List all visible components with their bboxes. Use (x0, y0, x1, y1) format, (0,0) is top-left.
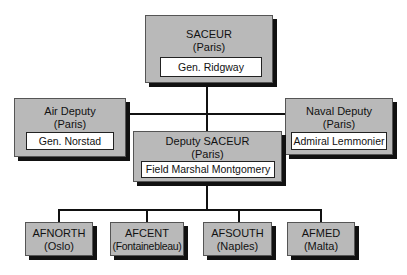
naval-deputy-title: Naval Deputy (286, 105, 392, 118)
afcent-title: AFCENT (111, 227, 183, 240)
deputy-saceur-holder: Field Marshal Montgomery (141, 161, 275, 178)
afsouth-location: (Naples) (204, 240, 271, 253)
saceur-holder: Gen. Ridgway (160, 57, 262, 77)
afcent-box: AFCENT (Fontainebleau) (110, 222, 184, 256)
saceur-location: (Paris) (146, 41, 272, 54)
afnorth-box: AFNORTH (Oslo) (25, 222, 93, 256)
naval-deputy-box: Naval Deputy (Paris) Admiral Lemmonier (285, 98, 393, 155)
connector-afnorth (58, 209, 60, 222)
connector-deputy-to-commands (206, 182, 208, 211)
afmed-title: AFMED (288, 227, 354, 240)
afmed-box: AFMED (Malta) (287, 222, 355, 256)
connector-deputies-horizontal (126, 113, 285, 115)
afcent-location: (Fontainebleau) (111, 240, 183, 253)
afsouth-box: AFSOUTH (Naples) (203, 222, 272, 256)
air-deputy-location: (Paris) (15, 118, 125, 131)
connector-saceur-to-deputy (206, 83, 208, 131)
saceur-box: SACEUR (Paris) Gen. Ridgway (145, 15, 273, 83)
afmed-location: (Malta) (288, 240, 354, 253)
afnorth-title: AFNORTH (26, 227, 92, 240)
air-deputy-holder: Gen. Norstad (26, 132, 114, 150)
deputy-saceur-title: Deputy SACEUR (134, 135, 281, 148)
connector-afcent (146, 209, 148, 222)
naval-deputy-holder: Admiral Lemmonier (291, 132, 387, 150)
connector-afsouth (238, 209, 240, 222)
saceur-title: SACEUR (146, 28, 272, 41)
deputy-saceur-box: Deputy SACEUR (Paris) Field Marshal Mont… (133, 131, 282, 182)
connector-commands-horizontal (58, 209, 322, 211)
deputy-saceur-location: (Paris) (134, 148, 281, 161)
air-deputy-title: Air Deputy (15, 105, 125, 118)
connector-afmed (320, 209, 322, 222)
afnorth-location: (Oslo) (26, 240, 92, 253)
naval-deputy-location: (Paris) (286, 118, 392, 131)
air-deputy-box: Air Deputy (Paris) Gen. Norstad (14, 98, 126, 157)
afsouth-title: AFSOUTH (204, 227, 271, 240)
